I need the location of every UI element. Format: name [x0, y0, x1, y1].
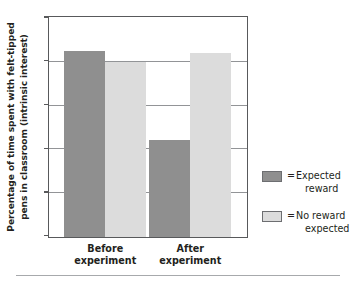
y-tick-12: [44, 104, 49, 105]
x-axis-label-after: After experiment: [140, 243, 240, 266]
bar-before-experiment-expected-reward: [64, 51, 105, 237]
legend-label-no-reward-expected-line1: No reward: [296, 210, 360, 223]
bar-before-experiment-no-reward-expected: [105, 62, 146, 237]
bottom-divider: [16, 275, 340, 276]
legend-label-expected-reward: Expected reward: [296, 170, 360, 195]
x-axis-label-after-line2: experiment: [140, 255, 240, 267]
bar-chart-figure: Percentage of time spent with felt-tippe…: [0, 0, 362, 287]
y-axis-title: Percentage of time spent with felt-tippe…: [2, 16, 32, 238]
chart-legend: = Expected reward = No reward expected: [262, 170, 360, 250]
legend-swatch-expected-reward: [262, 171, 282, 182]
plot-area: 048121620: [48, 16, 248, 238]
legend-label-expected-reward-line2: reward: [296, 183, 360, 196]
y-tick-0: [44, 235, 49, 236]
legend-equals-sign-2: =: [287, 210, 295, 221]
y-axis-title-line2: pens in classroom (intrinsic interest): [17, 22, 30, 231]
y-tick-4: [44, 191, 49, 192]
y-axis-title-line1: Percentage of time spent with felt-tippe…: [6, 22, 16, 231]
plot-inner: 048121620: [49, 17, 247, 237]
y-tick-8: [44, 148, 49, 149]
bar-after-experiment-expected-reward: [149, 140, 190, 237]
x-axis-label-after-line1: After: [140, 243, 240, 255]
bar-after-experiment-no-reward-expected: [190, 53, 231, 237]
y-tick-16: [44, 60, 49, 61]
y-tick-20: [44, 16, 49, 17]
legend-item-no-reward-expected: = No reward expected: [262, 210, 360, 236]
legend-item-expected-reward: = Expected reward: [262, 170, 360, 196]
legend-label-no-reward-expected-line2: expected: [296, 223, 360, 236]
legend-equals-sign-1: =: [287, 170, 295, 181]
legend-label-no-reward-expected: No reward expected: [296, 210, 360, 235]
legend-swatch-no-reward-expected: [262, 211, 282, 222]
legend-label-expected-reward-line1: Expected: [296, 170, 360, 183]
